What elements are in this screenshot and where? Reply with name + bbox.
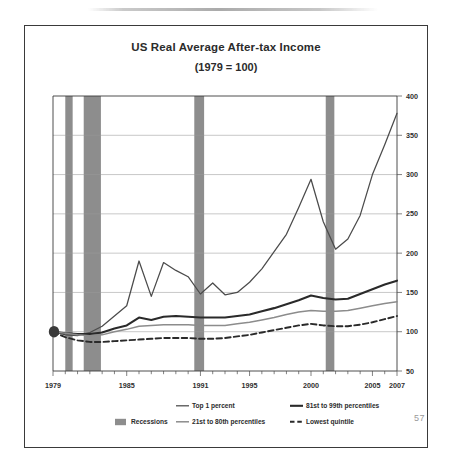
legend-item: 81st to 99th percentiles <box>290 402 380 410</box>
legend-label: Recessions <box>131 418 168 425</box>
legend-item: 21st to 80th percentiles <box>176 418 266 426</box>
series-line <box>53 113 397 335</box>
recession-band <box>326 96 335 371</box>
recession-band <box>194 96 204 371</box>
recession-band <box>84 96 101 371</box>
legend-label: Lowest quintile <box>306 418 354 426</box>
income-line-chart: 50100150200250300350400 1979198519911995… <box>25 26 429 449</box>
x-axis-ticks <box>53 371 397 376</box>
origin-marker <box>49 326 59 338</box>
legend-label: 21st to 80th percentiles <box>192 418 266 426</box>
x-axis-labels: 1979198519911995200020052007 <box>45 381 405 390</box>
y-axis-tick-label: 50 <box>406 367 414 376</box>
y-axis-tick-label: 350 <box>406 131 418 140</box>
x-axis-tick-label: 1995 <box>242 381 258 390</box>
recession-band <box>65 96 72 371</box>
y-axis-tick-label: 300 <box>406 170 418 179</box>
legend-item: Lowest quintile <box>290 418 354 426</box>
y-axis-tick-label: 200 <box>406 249 418 258</box>
x-axis-tick-label: 1991 <box>192 381 208 390</box>
x-axis-tick-label: 2005 <box>364 381 380 390</box>
x-axis-tick-label: 2007 <box>389 381 405 390</box>
legend-label: Top 1 percent <box>192 402 236 410</box>
y-axis-ticks <box>397 96 402 371</box>
scan-smudge <box>88 8 378 11</box>
chart-plot-area: 50100150200250300350400 1979198519911995… <box>25 26 429 449</box>
y-axis-tick-label: 400 <box>406 92 418 101</box>
legend-label: 81st to 99th percentiles <box>306 402 380 410</box>
y-axis-tick-label: 250 <box>406 209 418 218</box>
x-axis-tick-label: 1979 <box>45 381 61 390</box>
series-line <box>53 316 397 342</box>
gridlines <box>53 96 397 371</box>
legend-item: Recessions <box>115 418 168 425</box>
page-number: 57 <box>414 413 425 423</box>
y-axis-labels: 50100150200250300350400 <box>406 92 418 376</box>
x-axis-tick-label: 1985 <box>119 381 135 390</box>
legend-item: Top 1 percent <box>176 402 236 410</box>
chart-legend: Top 1 percent81st to 99th percentilesRec… <box>115 402 380 426</box>
origin-dot <box>49 326 59 338</box>
y-axis-tick-label: 150 <box>406 288 418 297</box>
x-axis-tick-label: 2000 <box>303 381 319 390</box>
data-series-group <box>53 113 397 342</box>
recession-bands <box>65 96 334 371</box>
legend-swatch-recessions <box>115 419 126 425</box>
y-axis-tick-label: 100 <box>406 327 418 336</box>
series-line <box>53 302 397 336</box>
slide-frame: US Real Average After-tax Income (1979 =… <box>24 25 428 448</box>
